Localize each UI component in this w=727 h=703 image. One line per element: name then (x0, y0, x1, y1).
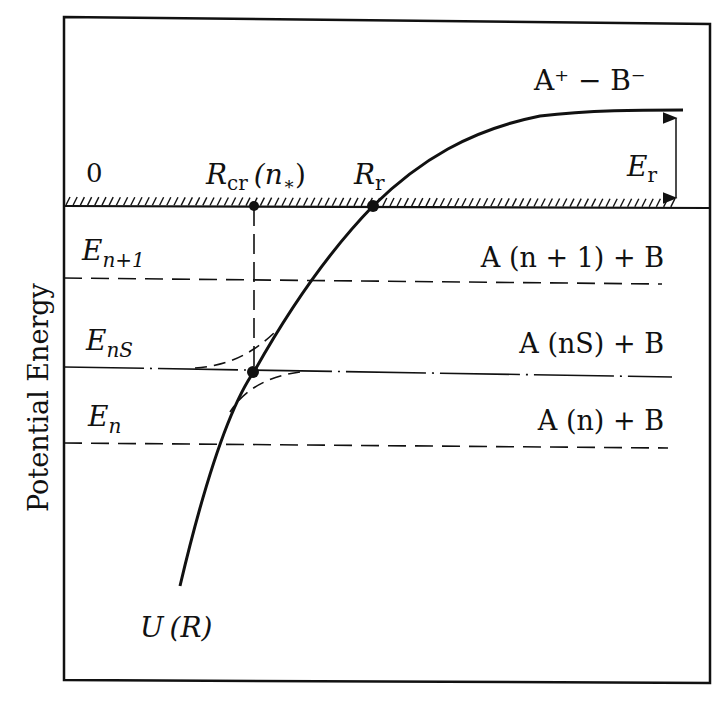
y-axis-label: Potential Energy (23, 282, 54, 512)
curve-label: U(R) (140, 611, 213, 644)
level-label-En1: En+1 (81, 234, 145, 272)
level-label-En: En (87, 400, 121, 438)
level-line-EnS (64, 367, 672, 377)
rr-label: Rr (353, 158, 385, 195)
zero-label: 0 (86, 158, 103, 188)
point-rcr (249, 201, 259, 211)
avoided-crossing-upper (195, 332, 275, 368)
channel-label-n1: A (n + 1) + B (480, 242, 664, 273)
rcr-label: Rcr(n∗) (205, 158, 306, 195)
level-label-EnS: EnS (85, 324, 133, 362)
zero-baseline (64, 197, 710, 208)
point-rr (367, 200, 379, 212)
level-line-En1 (64, 278, 662, 284)
point-crossing (247, 366, 259, 378)
asymptote-label: A⁺ − B⁻ (533, 64, 646, 97)
channel-label-n: A (n) + B (537, 405, 664, 436)
er-label: Er (626, 150, 657, 187)
potential-energy-diagram: 0 Rcr(n∗) Rr A⁺ − B⁻ Er En+1 EnS En A (n… (0, 0, 727, 703)
channel-label-nS: A (nS) + B (518, 328, 664, 359)
level-line-En (64, 443, 668, 448)
